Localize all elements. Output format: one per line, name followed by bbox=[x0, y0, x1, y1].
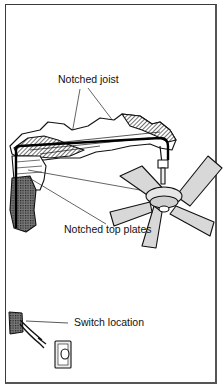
wall-switch bbox=[55, 341, 71, 368]
label-notched-top-plates: Notched top plates bbox=[64, 223, 152, 235]
fan-blade bbox=[176, 156, 222, 206]
wiring-illustration bbox=[0, 0, 224, 388]
label-notched-joist: Notched joist bbox=[58, 73, 119, 85]
fan-blade bbox=[170, 206, 214, 236]
label-switch-location: Switch location bbox=[74, 316, 144, 328]
